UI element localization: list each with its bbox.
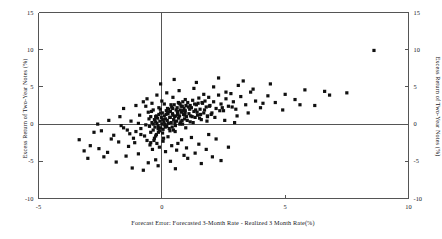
data-point xyxy=(224,91,227,94)
data-point xyxy=(234,108,237,111)
data-point xyxy=(166,119,169,122)
data-point xyxy=(183,111,186,114)
data-point xyxy=(261,102,264,105)
data-point xyxy=(166,135,169,138)
data-point xyxy=(254,99,257,102)
data-point xyxy=(227,105,230,108)
y-tick-label-left: 5 xyxy=(12,83,34,90)
data-point xyxy=(139,127,142,130)
data-point xyxy=(142,169,145,172)
data-point xyxy=(152,128,155,131)
data-point xyxy=(131,166,134,169)
data-point xyxy=(78,138,81,141)
data-point xyxy=(110,137,113,140)
x-axis-title: Forecast Error: Forecasted 3-Month Rate … xyxy=(38,219,408,226)
x-tick-label: -5 xyxy=(27,203,51,210)
data-point xyxy=(217,76,220,79)
data-point xyxy=(203,99,206,102)
data-point xyxy=(203,108,206,111)
data-point xyxy=(92,131,95,134)
data-point xyxy=(158,120,161,123)
data-point xyxy=(174,124,177,127)
data-point xyxy=(107,119,110,122)
data-point xyxy=(155,114,158,117)
data-point xyxy=(138,114,141,117)
y-tick-label-right: 0 xyxy=(414,120,436,127)
data-point xyxy=(161,131,164,134)
data-point xyxy=(196,114,199,117)
data-point xyxy=(186,157,189,160)
data-point xyxy=(232,100,235,103)
data-point xyxy=(213,116,216,119)
data-point xyxy=(189,114,192,117)
data-point xyxy=(147,161,150,164)
data-point xyxy=(150,102,153,105)
data-point xyxy=(195,81,198,84)
data-point xyxy=(221,106,224,109)
data-point xyxy=(161,118,164,121)
y-tick-label-left: -5 xyxy=(12,157,34,164)
data-point xyxy=(167,122,170,125)
data-point xyxy=(242,79,245,82)
data-point xyxy=(127,145,130,148)
data-point xyxy=(132,137,135,140)
data-point xyxy=(176,113,179,116)
data-point xyxy=(239,95,242,98)
data-point xyxy=(298,103,301,106)
x-tick-label: 0 xyxy=(150,203,174,210)
data-point xyxy=(197,143,200,146)
data-point xyxy=(179,108,182,111)
data-point xyxy=(137,122,140,125)
data-point xyxy=(185,146,188,149)
y-tick-label-right: 15 xyxy=(414,9,436,16)
data-point xyxy=(153,125,156,128)
data-point xyxy=(145,97,148,100)
data-point xyxy=(173,78,176,81)
data-point xyxy=(249,91,252,94)
data-point xyxy=(182,154,185,157)
data-point xyxy=(212,100,215,103)
data-point xyxy=(157,127,160,130)
data-point xyxy=(192,121,195,124)
data-point xyxy=(266,94,269,97)
data-point xyxy=(134,130,137,133)
data-point xyxy=(133,141,136,144)
data-point xyxy=(186,101,189,104)
y-tick-label-right: -5 xyxy=(414,157,436,164)
data-point xyxy=(200,162,203,165)
data-point xyxy=(122,126,125,129)
data-point xyxy=(83,149,86,152)
data-point xyxy=(178,89,181,92)
data-point xyxy=(112,134,115,137)
data-point xyxy=(178,102,181,105)
data-point xyxy=(171,112,174,115)
data-point xyxy=(215,107,218,110)
data-point xyxy=(171,96,174,99)
y-tick-label-left: -10 xyxy=(12,195,34,202)
data-point xyxy=(222,109,225,112)
data-point xyxy=(155,142,158,145)
data-point xyxy=(224,97,227,100)
data-point xyxy=(252,88,255,91)
data-point xyxy=(219,102,222,105)
data-point xyxy=(151,148,154,151)
data-point xyxy=(161,140,164,143)
data-point xyxy=(89,144,92,147)
data-point xyxy=(144,105,147,108)
data-point xyxy=(100,129,103,132)
data-point xyxy=(194,108,197,111)
y-axis-title-right: Excess Return of Two-Year Notes (%) xyxy=(435,32,442,182)
data-point xyxy=(196,102,199,105)
data-point xyxy=(163,102,166,105)
data-point xyxy=(106,151,109,154)
data-point xyxy=(229,92,232,95)
data-point xyxy=(227,146,230,149)
data-point xyxy=(152,139,155,142)
data-point xyxy=(163,123,166,126)
data-point xyxy=(118,115,121,118)
data-point xyxy=(284,93,287,96)
data-point xyxy=(206,114,209,117)
data-point xyxy=(137,152,140,155)
data-point xyxy=(149,141,152,144)
